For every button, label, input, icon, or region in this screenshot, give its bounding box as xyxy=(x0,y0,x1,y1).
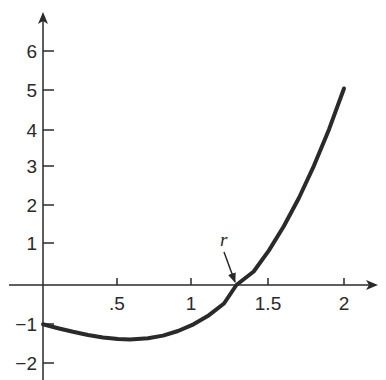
root-arrow-icon xyxy=(224,252,235,282)
x-ticks xyxy=(117,278,344,285)
y-tick-label: 2 xyxy=(26,195,37,216)
x-tick-label: 1.5 xyxy=(255,293,281,314)
y-ticks xyxy=(43,51,54,363)
y-tick-label: 5 xyxy=(26,80,37,101)
x-tick-label: 1 xyxy=(186,293,197,314)
x-tick-label: 2 xyxy=(339,293,350,314)
function-plot: .5 1 1.5 2 6 5 4 3 2 1 −1 −2 r xyxy=(0,0,386,380)
y-tick-label: 3 xyxy=(26,156,37,177)
x-tick-label: .5 xyxy=(109,293,125,314)
y-tick-label: −2 xyxy=(15,353,37,374)
root-label: r xyxy=(220,229,228,250)
y-tick-label: 1 xyxy=(26,233,37,254)
y-tick-label: −1 xyxy=(15,314,37,335)
y-tick-label: 6 xyxy=(26,41,37,62)
y-tick-label: 4 xyxy=(26,120,37,141)
